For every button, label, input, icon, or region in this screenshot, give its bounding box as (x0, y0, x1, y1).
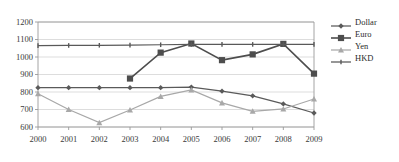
data-point-marker (219, 57, 225, 63)
legend-label: Euro (355, 29, 372, 39)
legend-item-yen[interactable]: Yen (330, 40, 396, 52)
axis-lines (35, 22, 314, 130)
series-line (38, 44, 314, 45)
data-point-marker (311, 71, 317, 77)
x-tick-label: 2005 (177, 134, 205, 144)
x-tick-label: 2006 (208, 134, 236, 144)
x-tick-label: 2003 (116, 134, 144, 144)
y-tick-label: 800 (2, 87, 33, 97)
y-tick-label: 900 (2, 69, 33, 79)
x-tick-label: 2002 (85, 134, 113, 144)
data-point-marker (281, 101, 286, 106)
gridlines (38, 22, 314, 127)
legend-diamond-icon (330, 17, 352, 27)
legend-label: Dollar (355, 17, 377, 27)
x-tick-label: 2009 (300, 134, 328, 144)
data-point-marker (250, 93, 255, 98)
legend-label: Yen (355, 41, 368, 51)
data-point-marker (338, 23, 343, 28)
series-line (38, 90, 314, 123)
data-point-marker (127, 85, 132, 90)
series-dollar (35, 84, 316, 115)
x-tick-label: 2008 (269, 134, 297, 144)
data-point-marker (97, 85, 102, 90)
chart-legend: DollarEuroYenHKD (330, 16, 396, 64)
data-point-marker (127, 75, 133, 81)
y-tick-label: 600 (2, 122, 33, 132)
data-point-marker (35, 85, 40, 90)
x-tick-label: 2004 (147, 134, 175, 144)
data-point-marker (219, 88, 224, 93)
x-tick-label: 2001 (55, 134, 83, 144)
y-tick-label: 1100 (2, 34, 33, 44)
x-tick-label: 2007 (239, 134, 267, 144)
legend-label: HKD (355, 53, 373, 63)
data-point-marker (158, 50, 164, 56)
data-point-marker (158, 85, 163, 90)
legend-item-dollar[interactable]: Dollar (330, 16, 396, 28)
y-tick-label: 1200 (2, 17, 33, 27)
series-layer (35, 40, 317, 125)
line-chart: 600700800900100011001200 200020012002200… (0, 0, 399, 162)
x-tick-label: 2000 (24, 134, 52, 144)
legend-item-euro[interactable]: Euro (330, 28, 396, 40)
legend-line-icon (330, 53, 352, 63)
series-yen (35, 87, 317, 125)
data-point-marker (311, 96, 317, 102)
legend-item-hkd[interactable]: HKD (330, 52, 396, 64)
legend-square-icon (330, 29, 352, 39)
data-point-marker (66, 85, 71, 90)
y-tick-label: 1000 (2, 52, 33, 62)
y-tick-label: 700 (2, 104, 33, 114)
legend-triangle-icon (330, 41, 352, 51)
data-point-marker (311, 110, 316, 115)
data-point-marker (250, 51, 256, 57)
